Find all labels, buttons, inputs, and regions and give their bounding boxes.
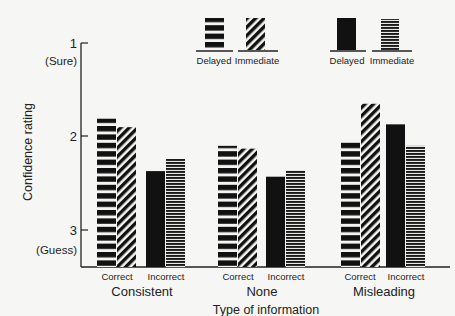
legend-item-incorrect-immediate: Immediate: [370, 19, 414, 66]
y-axis-label: Confidence rating: [21, 103, 35, 201]
bar-consistent-incorrect-immediate: [166, 159, 185, 267]
y-tick-1: 1: [70, 36, 77, 51]
legend: Delayed Immediate Delayed Immediate: [196, 18, 414, 66]
x-group-misleading: Misleading: [353, 284, 415, 299]
legend-item-incorrect-delayed: Delayed: [330, 18, 366, 66]
bar-misleading-correct-delayed: [341, 141, 360, 267]
x-sublabel-none-incorrect: Incorrect: [268, 271, 305, 282]
x-group-none: None: [246, 284, 277, 299]
bar-consistent-incorrect-delayed: [146, 171, 165, 267]
thick-stripes-swatch-icon: [205, 18, 224, 50]
x-sublabel-misleading-correct: Correct: [344, 271, 376, 282]
legend-label-delayed-2: Delayed: [330, 55, 365, 66]
legend-label-delayed: Delayed: [197, 55, 232, 66]
bar-consistent-correct-delayed: [97, 119, 116, 267]
x-sublabel-consistent-correct: Correct: [101, 271, 133, 282]
legend-item-correct-immediate: Immediate: [235, 18, 279, 66]
y-tick-1-sublabel: (Sure): [45, 55, 77, 67]
confidence-bar-chart: 1 (Sure) 2 3 (Guess) Confidence rating C…: [0, 0, 455, 316]
bar-misleading-incorrect-delayed: [386, 124, 405, 267]
solid-black-swatch-icon: [337, 18, 356, 50]
bars-group: [97, 104, 425, 267]
y-tick-3: 3: [70, 223, 77, 238]
bar-misleading-incorrect-immediate: [406, 146, 425, 267]
diagonal-stripes-swatch-icon: [246, 18, 265, 50]
x-sublabel-consistent-incorrect: Incorrect: [148, 271, 185, 282]
y-tick-3-sublabel: (Guess): [36, 244, 77, 256]
bar-none-correct-delayed: [218, 146, 237, 267]
x-sublabel-none-correct: Correct: [222, 271, 254, 282]
bar-none-incorrect-delayed: [266, 177, 285, 267]
x-axis-label: Type of information: [213, 303, 319, 316]
bar-misleading-correct-immediate: [361, 104, 380, 267]
bar-none-correct-immediate: [238, 149, 257, 267]
fine-stripes-swatch-icon: [381, 19, 399, 50]
legend-item-correct-delayed: Delayed: [196, 18, 233, 66]
x-group-consistent: Consistent: [111, 284, 173, 299]
legend-label-immediate-2: Immediate: [370, 55, 414, 66]
x-sublabel-misleading-incorrect: Incorrect: [388, 271, 425, 282]
bar-consistent-correct-immediate: [117, 127, 136, 267]
y-tick-2: 2: [70, 129, 77, 144]
bar-none-incorrect-immediate: [286, 170, 305, 267]
legend-label-immediate: Immediate: [235, 55, 279, 66]
y-axis: [81, 43, 88, 267]
